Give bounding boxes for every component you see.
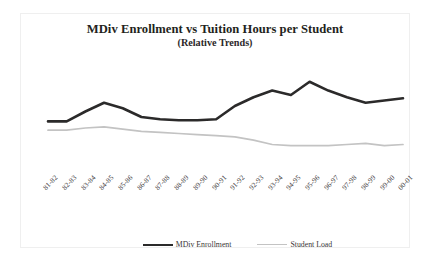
legend-item-student-load[interactable]: Student Load <box>257 240 332 249</box>
series-line-mdiv-enrollment <box>48 127 403 146</box>
x-axis-tick-label: 00-01 <box>397 174 415 192</box>
line-chart-svg <box>48 62 403 172</box>
legend-swatch-icon <box>257 244 287 245</box>
series-line-student-load <box>48 82 403 122</box>
legend-item-mdiv-enrollment[interactable]: MDiv Enrollment <box>143 240 232 249</box>
chart-subtitle: (Relative Trends) <box>21 37 409 49</box>
chart-title-block: MDiv Enrollment vs Tuition Hours per Stu… <box>21 22 409 49</box>
chart-legend: MDiv Enrollment Student Load <box>21 240 433 249</box>
legend-item-label: Student Load <box>290 240 332 249</box>
page-title: MDiv Enrollment vs Tuition Hours per Stu… <box>21 22 409 36</box>
x-axis-tick-00-01: 00-01 <box>383 172 423 190</box>
legend-swatch-icon <box>143 244 173 246</box>
legend-item-label: MDiv Enrollment <box>176 240 232 249</box>
x-axis-tick-labels: 81-8282-8383-8484-8585-8686-8787-8888-89… <box>48 172 403 222</box>
chart-container: MDiv Enrollment vs Tuition Hours per Stu… <box>20 13 410 248</box>
plot-area <box>48 62 403 172</box>
